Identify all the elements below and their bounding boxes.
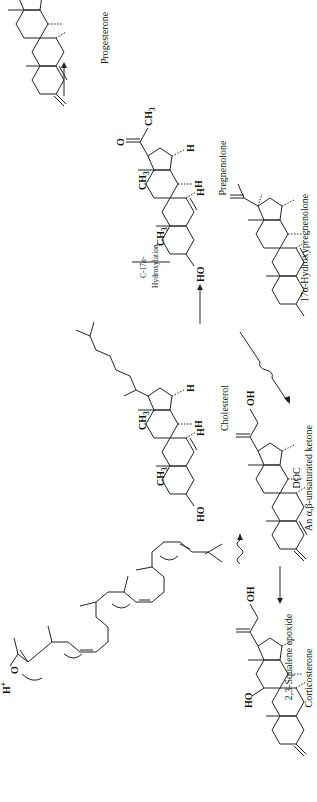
ch3-label: CH3 xyxy=(137,171,151,190)
squalene-epoxide-structure xyxy=(10,542,222,680)
h-label: H xyxy=(195,428,206,436)
arrowhead xyxy=(61,62,67,68)
ho-label: HO xyxy=(195,506,206,522)
corticosterone-name: Corticosterone xyxy=(303,648,314,707)
doc-subtitle: An α,β-unsaturated ketone xyxy=(303,424,314,531)
oh-label: OH xyxy=(245,586,256,602)
ch3-label: CH3 xyxy=(137,411,151,430)
cholesterol-name: Cholesterol xyxy=(219,385,230,431)
proton-label: H+ xyxy=(0,682,12,694)
h-label: H xyxy=(185,144,196,152)
arrowhead xyxy=(277,598,283,604)
ch3-label: CH3 xyxy=(155,227,169,246)
h-label: H xyxy=(185,384,196,392)
o-label: O xyxy=(115,138,126,146)
doc-name: DOC xyxy=(291,467,302,488)
pregnenolone-name: Pregnenolone xyxy=(217,140,228,196)
h-label: H xyxy=(195,188,206,196)
epoxide-oxygen-label: O xyxy=(9,666,20,674)
17-hydroxypregnenolone-name: 17α-Hydroxypregnenolone xyxy=(299,193,310,302)
ho-label: HO xyxy=(243,692,254,708)
ch3-label: CH3 xyxy=(155,467,169,486)
oh-label: OH xyxy=(245,390,256,406)
h-label: H xyxy=(193,420,204,428)
arrowhead xyxy=(237,534,243,540)
hydroxylation-label-line2: Hydroxylation xyxy=(151,244,160,288)
ho-label: HO xyxy=(195,266,206,282)
17-hydroxypregnenolone-structure xyxy=(230,184,307,316)
squalene-epoxide-name: 2,3-Squalene epoxide xyxy=(283,613,294,700)
progesterone-structure xyxy=(0,0,67,106)
cholesterol-structure xyxy=(76,322,197,506)
corticosterone-structure xyxy=(236,604,306,756)
ch3-label: CH3 xyxy=(143,107,157,126)
h-label: H xyxy=(193,180,204,188)
arrowhead xyxy=(197,284,203,290)
hydroxylation-label-line1: C-17α- xyxy=(139,256,148,278)
reaction-diagram: O H+ 2,3-Squalene epoxide CH3 CH3 H H xyxy=(0,0,317,802)
progesterone-name: Progesterone xyxy=(99,11,110,64)
